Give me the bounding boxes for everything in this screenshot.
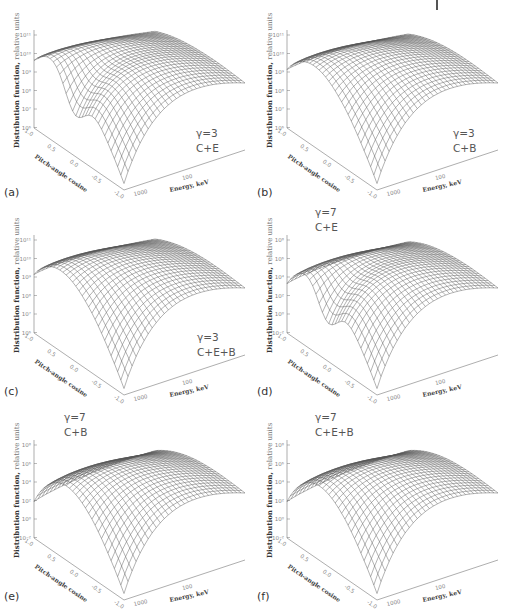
panel-label: (d) — [257, 385, 273, 398]
pitch-ticks: 1.00.50.0-0.5-1.0Pitch-angle cosine — [277, 332, 379, 405]
surface-plot: 10¹¹10¹⁰10⁹10⁸10⁷10⁶1.00.50.0-0.5-1.0Pit… — [0, 0, 253, 205]
svg-text:-1.0: -1.0 — [366, 599, 379, 610]
wireframe-mesh — [34, 450, 245, 593]
gamma-case-label: γ=7C+E — [315, 205, 338, 235]
pitch-axis-label: Pitch-angle cosine — [33, 358, 89, 400]
axes — [287, 235, 498, 395]
surface-plot: 10¹¹10¹⁰10⁹10⁸10⁷10⁶1.00.50.0-0.5-1.0Pit… — [253, 0, 506, 205]
svg-text:-1.0: -1.0 — [113, 599, 126, 610]
wireframe-mesh — [287, 450, 498, 593]
pitch-ticks: 1.00.50.0-0.5-1.0Pitch-angle cosine — [24, 332, 126, 405]
svg-text:10⁹: 10⁹ — [275, 69, 284, 75]
svg-text:10⁸: 10⁸ — [22, 442, 32, 448]
gamma-value: γ=3 — [196, 126, 219, 141]
surface-panel-f: 10⁸10⁶10⁴10²10⁰10⁻²1.00.50.0-0.5-1.0Pitc… — [253, 410, 506, 610]
svg-text:10⁶: 10⁶ — [275, 256, 285, 262]
pitch-ticks: 1.00.50.0-0.5-1.0Pitch-angle cosine — [277, 537, 379, 610]
svg-text:-1.0: -1.0 — [366, 394, 379, 405]
svg-text:0.5: 0.5 — [46, 348, 57, 358]
svg-text:10¹⁰: 10¹⁰ — [273, 51, 285, 57]
svg-text:100: 100 — [434, 583, 446, 591]
svg-text:10¹⁰: 10¹⁰ — [20, 51, 32, 57]
svg-text:10⁰: 10⁰ — [275, 311, 285, 317]
svg-text:-1.0: -1.0 — [366, 189, 379, 200]
z-ticks: 10¹¹10¹⁰10⁹10⁸10⁷10⁶ — [273, 32, 290, 131]
svg-text:1000: 1000 — [133, 393, 148, 402]
svg-text:10⁷: 10⁷ — [275, 106, 284, 112]
svg-text:-1.0: -1.0 — [113, 394, 126, 405]
svg-text:0.5: 0.5 — [299, 348, 310, 358]
svg-text:10⁷: 10⁷ — [22, 106, 31, 112]
z-axis-label: Distribution function, relative units — [12, 13, 21, 148]
svg-text:0.0: 0.0 — [69, 568, 80, 578]
energy-axis-label: Energy, keV — [169, 178, 210, 194]
svg-text:-0.5: -0.5 — [90, 173, 103, 184]
svg-text:0.0: 0.0 — [322, 158, 333, 168]
gamma-value: γ=7 — [315, 205, 338, 220]
pitch-ticks: 1.00.50.0-0.5-1.0Pitch-angle cosine — [24, 127, 126, 200]
pitch-axis-label: Pitch-angle cosine — [33, 153, 89, 195]
energy-ticks: 1000100Energy, keV — [386, 378, 463, 402]
svg-text:0.0: 0.0 — [322, 568, 333, 578]
pitch-axis-label: Pitch-angle cosine — [33, 563, 89, 605]
svg-text:1.0: 1.0 — [277, 537, 288, 547]
case-label: C+B — [64, 425, 87, 440]
svg-text:100: 100 — [181, 583, 193, 591]
z-axis-label: Distribution function, relative units — [265, 423, 274, 558]
svg-text:10⁸: 10⁸ — [22, 88, 32, 94]
gamma-value: γ=3 — [453, 126, 476, 141]
svg-text:1000: 1000 — [386, 598, 401, 607]
energy-ticks: 1000100Energy, keV — [386, 583, 463, 607]
svg-text:-0.5: -0.5 — [343, 583, 356, 594]
wireframe-mesh — [34, 239, 245, 389]
case-label: C+E+B — [315, 425, 354, 440]
svg-text:10⁰: 10⁰ — [22, 516, 32, 522]
z-ticks: 10¹¹10¹⁰10⁹10⁸10⁷10⁶ — [20, 237, 37, 336]
svg-text:-0.5: -0.5 — [90, 378, 103, 389]
svg-text:10²: 10² — [275, 293, 284, 299]
energy-axis-label: Energy, keV — [422, 588, 463, 604]
case-label: C+E+B — [197, 345, 236, 360]
axes — [34, 440, 245, 600]
z-axis-label: Distribution function, relative units — [265, 218, 274, 353]
svg-text:100: 100 — [434, 173, 446, 181]
gamma-value: γ=3 — [197, 330, 236, 345]
pitch-axis-label: Pitch-angle cosine — [286, 358, 342, 400]
svg-text:1.0: 1.0 — [277, 127, 288, 137]
svg-text:0.5: 0.5 — [299, 553, 310, 563]
pitch-ticks: 1.00.50.0-0.5-1.0Pitch-angle cosine — [277, 127, 379, 200]
panel-label: (f) — [257, 590, 269, 603]
z-axis-label: Distribution function, relative units — [265, 13, 274, 148]
pitch-axis-label: Pitch-angle cosine — [286, 153, 342, 195]
energy-ticks: 1000100Energy, keV — [133, 378, 210, 402]
svg-text:10⁸: 10⁸ — [275, 237, 285, 243]
energy-ticks: 1000100Energy, keV — [133, 173, 210, 197]
energy-ticks: 1000100Energy, keV — [133, 583, 210, 607]
gamma-case-label: γ=7C+B — [64, 410, 87, 440]
wireframe-mesh — [287, 34, 498, 184]
gamma-value: γ=7 — [315, 410, 354, 425]
svg-text:10¹¹: 10¹¹ — [20, 32, 31, 38]
svg-text:10⁴: 10⁴ — [275, 274, 285, 280]
gamma-case-label: γ=3C+E+B — [197, 330, 236, 360]
svg-text:10⁷: 10⁷ — [22, 311, 31, 317]
case-label: C+B — [453, 141, 476, 156]
z-axis-label: Distribution function, relative units — [12, 218, 21, 353]
surface-panel-e: 10⁸10⁶10⁴10²10⁰10⁻²1.00.50.0-0.5-1.0Pitc… — [0, 410, 253, 610]
pitch-axis-label: Pitch-angle cosine — [286, 563, 342, 605]
svg-text:10⁶: 10⁶ — [275, 461, 285, 467]
axes — [287, 440, 498, 600]
svg-text:-0.5: -0.5 — [343, 378, 356, 389]
svg-text:10⁸: 10⁸ — [275, 88, 285, 94]
svg-text:10⁰: 10⁰ — [275, 516, 285, 522]
svg-text:-0.5: -0.5 — [343, 173, 356, 184]
svg-text:0.5: 0.5 — [46, 143, 57, 153]
energy-ticks: 1000100Energy, keV — [386, 173, 463, 197]
gamma-case-label: γ=3C+B — [453, 126, 476, 156]
svg-text:10⁸: 10⁸ — [22, 293, 32, 299]
z-ticks: 10¹¹10¹⁰10⁹10⁸10⁷10⁶ — [20, 32, 37, 131]
pitch-ticks: 1.00.50.0-0.5-1.0Pitch-angle cosine — [24, 537, 126, 610]
svg-text:10⁹: 10⁹ — [22, 274, 31, 280]
svg-text:10¹¹: 10¹¹ — [273, 32, 284, 38]
svg-text:1000: 1000 — [386, 393, 401, 402]
